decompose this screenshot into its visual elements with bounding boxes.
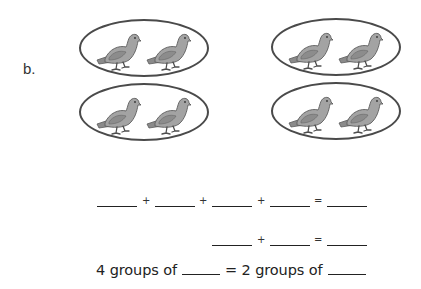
group-top-left	[79, 19, 209, 77]
plus-sign: +	[199, 195, 207, 206]
pigeon-icon	[145, 31, 193, 71]
pigeon-icon	[95, 31, 143, 71]
plus-sign: +	[257, 195, 265, 206]
pigeon-icon	[145, 95, 193, 135]
answer-blank[interactable]	[97, 206, 137, 207]
equals-sign: =	[314, 195, 322, 206]
pigeon-icon	[337, 94, 385, 134]
sentence-part-2: = 2 groups of	[225, 262, 323, 278]
problem-label: b.	[23, 60, 36, 77]
plus-sign: +	[257, 234, 265, 245]
answer-blank[interactable]	[212, 245, 252, 246]
groups-sentence: 4 groups of= 2 groups of	[96, 262, 371, 278]
pigeon-icon	[287, 94, 335, 134]
group-bottom-right	[271, 82, 401, 140]
pigeon-icon	[95, 95, 143, 135]
sentence-part-1: 4 groups of	[96, 262, 177, 278]
answer-blank[interactable]	[327, 245, 367, 246]
pigeon-icon	[337, 30, 385, 70]
pigeon-icon	[287, 30, 335, 70]
answer-blank[interactable]	[155, 206, 195, 207]
answer-blank[interactable]	[328, 273, 366, 275]
answer-blank[interactable]	[182, 273, 220, 275]
answer-blank[interactable]	[270, 245, 310, 246]
group-top-right	[271, 18, 401, 76]
answer-blank[interactable]	[327, 206, 367, 207]
group-bottom-left	[79, 83, 209, 141]
equals-sign: =	[314, 234, 322, 245]
answer-blank[interactable]	[212, 206, 252, 207]
answer-blank[interactable]	[270, 206, 310, 207]
plus-sign: +	[142, 195, 150, 206]
